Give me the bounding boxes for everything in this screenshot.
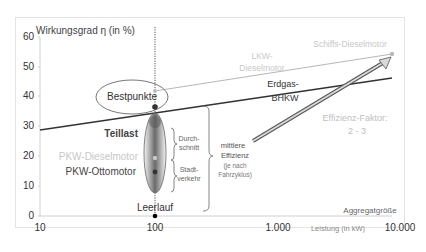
idle-point [153, 214, 158, 219]
svg-text:20: 20 [23, 150, 35, 161]
mean-eff-4: Fahrzyklus) [218, 171, 252, 179]
svg-text:30: 30 [23, 120, 35, 131]
average-label-1: Durch- [178, 135, 200, 142]
car-diesel-point [153, 156, 157, 160]
ship-label: Schiffs-Dieselmotor [313, 39, 387, 49]
mean-eff-1: mittlere [221, 141, 246, 150]
svg-text:40: 40 [23, 90, 35, 101]
y-tick-labels: 60 50 40 30 20 10 0 [23, 31, 35, 221]
chp-label-2: BHKW [272, 93, 300, 103]
svg-text:10.000: 10.000 [385, 222, 416, 233]
efficiency-chart: 60 50 40 30 20 10 0 10 100 1.000 10.000 … [0, 0, 426, 252]
svg-text:1.000: 1.000 [265, 222, 290, 233]
part-load-label: Teillast [104, 128, 138, 139]
svg-text:0: 0 [28, 210, 34, 221]
best-points-label: Bestpunkte [107, 91, 157, 102]
brace-mean-efficiency [203, 106, 213, 211]
truck-label-1: LKW- [251, 51, 272, 61]
factor-label-2: 2 - 3 [348, 126, 366, 136]
city-label-2: verkehr [177, 175, 201, 182]
car-petrol-label: PKW-Ottomotor [66, 166, 137, 177]
factor-label-1: Effizienz-Faktor: [323, 113, 388, 123]
brace-city [171, 160, 177, 192]
svg-text:10: 10 [23, 180, 35, 191]
mean-eff-3: (je nach [223, 162, 247, 170]
average-label-2: schnitt [179, 144, 199, 151]
truck-label-2: Dieselmotor [239, 63, 285, 73]
mean-eff-2: Effizienz [221, 151, 249, 160]
svg-text:50: 50 [23, 61, 35, 72]
x-axis-title-secondary: Aggregatgröße [343, 206, 397, 215]
chp-label-1: Erdgas- [267, 79, 299, 89]
city-label-1: Stadt- [180, 166, 199, 173]
y-axis-title: Wirkungsgrad η (in %) [36, 25, 135, 36]
brace-average [171, 128, 177, 160]
svg-text:100: 100 [147, 222, 164, 233]
svg-text:60: 60 [23, 31, 35, 42]
x-axis-title: Leistung (in kW) [311, 224, 366, 233]
car-diesel-label: PKW-Dieselmotor [59, 151, 139, 162]
idle-label: Leerlauf [137, 202, 173, 213]
car-petrol-point [153, 170, 158, 175]
svg-text:10: 10 [34, 222, 46, 233]
ship-diesel-point [390, 52, 394, 56]
